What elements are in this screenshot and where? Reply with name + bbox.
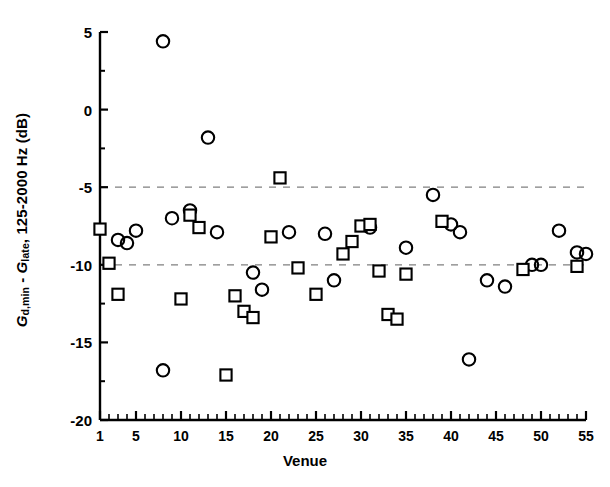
x-tick-label: 20: [263, 428, 279, 444]
x-tick-label: 45: [488, 428, 504, 444]
y-tick-label: 0: [54, 101, 92, 118]
data-point-square: [391, 314, 402, 325]
y-axis-label-symbol-2: G: [13, 261, 30, 273]
data-point-circle: [211, 226, 223, 238]
x-tick-label: 10: [173, 428, 189, 444]
data-point-circle: [202, 131, 214, 143]
data-point-circle: [328, 274, 340, 286]
y-axis-label-symbol-1: G: [13, 315, 30, 327]
data-point-square: [112, 289, 123, 300]
data-point-circle: [463, 353, 475, 365]
data-point-square: [400, 269, 411, 280]
y-axis-label-tail: , 125-2000 Hz (dB): [13, 113, 30, 243]
data-point-square: [265, 231, 276, 242]
data-point-circle: [157, 364, 169, 376]
y-tick-label: -15: [54, 334, 92, 351]
x-tick-label: 35: [398, 428, 414, 444]
y-tick-label: -20: [54, 412, 92, 429]
data-point-square: [103, 258, 114, 269]
data-point-square: [247, 312, 258, 323]
y-tick-label: 5: [54, 24, 92, 41]
data-point-circle: [166, 212, 178, 224]
data-point-circle: [157, 35, 169, 47]
data-point-square: [193, 222, 204, 233]
x-tick-label: 25: [308, 428, 324, 444]
data-point-square: [310, 289, 321, 300]
series-circles: [112, 35, 592, 376]
data-point-square: [220, 369, 231, 380]
x-tick-label: 55: [578, 428, 594, 444]
data-point-circle: [130, 224, 142, 236]
x-tick-label: 30: [353, 428, 369, 444]
x-axis-label: Venue: [0, 452, 610, 469]
y-axis-label-container: Gd,min - Glate, 125-2000 Hz (dB): [0, 0, 44, 440]
data-point-square: [184, 210, 195, 221]
data-point-square: [337, 248, 348, 259]
data-point-circle: [247, 266, 259, 278]
y-axis-label-minus: -: [13, 273, 30, 287]
data-point-square: [346, 236, 357, 247]
data-point-circle: [427, 189, 439, 201]
x-tick-label: 40: [443, 428, 459, 444]
x-tick-label: 5: [132, 428, 140, 444]
data-point-square: [364, 219, 375, 230]
x-tick-label: 1: [96, 428, 104, 444]
data-point-circle: [580, 248, 592, 260]
data-point-square: [292, 262, 303, 273]
data-point-square: [436, 216, 447, 227]
y-axis-label-subscript-1: d,min: [19, 287, 31, 316]
data-point-circle: [283, 226, 295, 238]
data-point-square: [274, 172, 285, 183]
data-point-circle: [400, 242, 412, 254]
y-axis-label: Gd,min - Glate, 125-2000 Hz (dB): [13, 113, 31, 327]
data-point-circle: [454, 226, 466, 238]
data-point-square: [94, 224, 105, 235]
data-point-square: [175, 293, 186, 304]
data-point-square: [229, 290, 240, 301]
data-point-square: [571, 261, 582, 272]
scatter-plot-figure: Gd,min - Glate, 125-2000 Hz (dB) Venue 5…: [0, 0, 610, 487]
x-tick-label: 15: [218, 428, 234, 444]
data-point-circle: [256, 283, 268, 295]
data-point-circle: [499, 280, 511, 292]
y-tick-label: -10: [54, 256, 92, 273]
x-tick-label: 50: [533, 428, 549, 444]
data-point-square: [373, 265, 384, 276]
data-point-square: [517, 264, 528, 275]
y-axis-label-subscript-2: late: [19, 243, 31, 262]
y-tick-label: -5: [54, 179, 92, 196]
data-point-circle: [553, 224, 565, 236]
data-point-circle: [319, 228, 331, 240]
data-point-circle: [481, 274, 493, 286]
